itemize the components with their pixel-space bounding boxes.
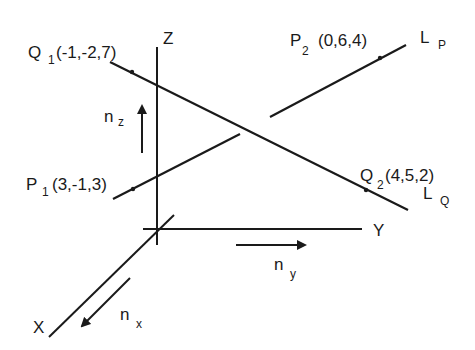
x-axis-label: X	[33, 318, 44, 337]
point-q2-dot	[364, 188, 368, 192]
y-axis-label: Y	[373, 221, 384, 240]
q2-subscript: 2	[377, 178, 384, 192]
q1-label: Q	[28, 43, 41, 62]
x-axis	[49, 215, 174, 337]
point-q1-dot	[130, 70, 134, 74]
p2-subscript: 2	[302, 44, 309, 58]
p1-subscript: 1	[42, 185, 49, 199]
q2-label: Q	[360, 166, 373, 185]
point-p2-dot	[378, 56, 382, 60]
line-lp-upper	[270, 45, 406, 117]
p1-coords: (3,-1,3)	[52, 175, 107, 194]
lp-subscript: P	[438, 38, 446, 52]
lp-label: L	[420, 28, 429, 47]
p2-label: P	[290, 31, 301, 50]
lq-subscript: Q	[440, 194, 449, 208]
q2-coords: (4,5,2)	[385, 166, 434, 185]
ny-subscript: y	[290, 267, 296, 281]
p1-label: P	[26, 175, 37, 194]
nx-subscript: x	[136, 317, 142, 331]
nz-label: n	[104, 107, 113, 126]
skew-lines-diagram: Z Y X n z n y n x Q 1 (-1,-2,7) P 1 (3,-…	[0, 0, 475, 350]
lq-label: L	[423, 184, 432, 203]
point-p1-dot	[131, 187, 135, 191]
line-lq	[110, 62, 408, 210]
q1-coords: (-1,-2,7)	[56, 43, 116, 62]
p2-coords: (0,6,4)	[318, 31, 367, 50]
nx-label: n	[120, 305, 129, 324]
nz-subscript: z	[118, 115, 124, 129]
z-axis-label: Z	[163, 29, 173, 48]
q1-subscript: 1	[48, 53, 55, 67]
ny-label: n	[274, 255, 283, 274]
